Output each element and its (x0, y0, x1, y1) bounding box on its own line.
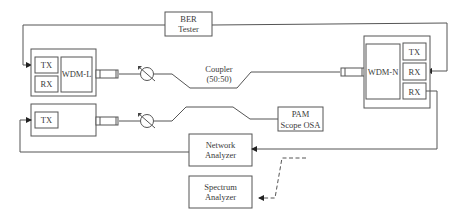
dashed-link-to-spectrum-analyzer (259, 158, 306, 198)
spectrum-analyzer-label-2: Analyzer (205, 192, 236, 202)
network-analyzer-label-2: Analyzer (205, 150, 236, 160)
pam-scope-osa-block: PAM Scope OSA (278, 107, 323, 131)
spectrum-analyzer-block: Spectrum Analyzer (189, 176, 252, 208)
coupler-lower-fiber (154, 107, 278, 121)
pam-label-1: PAM (292, 109, 310, 119)
right-unit: WDM-N TX RX RX (364, 36, 430, 108)
left-unit-bottom: TX (31, 104, 96, 136)
coupler-label-1: Coupler (205, 64, 233, 74)
variable-attenuator-icon-top (119, 66, 155, 81)
wdm-l-label: WDM-L (62, 69, 92, 79)
left-unit-top: TX RX WDM-L (31, 49, 96, 96)
left-top-connector (96, 70, 118, 78)
left-bottom-connector (96, 117, 118, 125)
ber-tester-label-1: BER (180, 14, 197, 24)
spectrum-analyzer-label-1: Spectrum (204, 182, 237, 192)
right-rx1-label: RX (409, 67, 421, 77)
pam-label-2: Scope OSA (281, 120, 322, 130)
left-rx-label: RX (41, 79, 53, 89)
ber-tester-block: BER Tester (165, 12, 212, 36)
variable-attenuator-icon-bottom (119, 113, 155, 128)
diagram-canvas: BER Tester TX RX WDM-L Coupler (50:50) (0, 0, 467, 221)
network-analyzer-label-1: Network (206, 140, 236, 150)
network-analyzer-block: Network Analyzer (189, 134, 252, 166)
ber-tester-label-2: Tester (178, 24, 199, 34)
coupler-label-2: (50:50) (206, 74, 231, 84)
right-connector (341, 68, 366, 76)
coupler-upper-fiber (154, 72, 340, 88)
left-tx-label: TX (41, 60, 52, 70)
wdm-n-label: WDM-N (368, 67, 399, 77)
right-rx2-label: RX (409, 87, 421, 97)
left-bottom-tx-label: TX (41, 115, 52, 125)
right-tx-label: TX (409, 47, 420, 57)
